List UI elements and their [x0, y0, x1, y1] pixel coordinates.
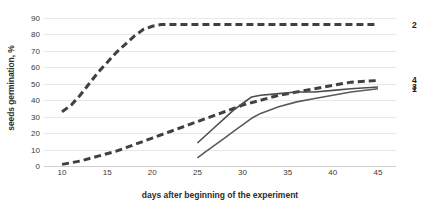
series-line-3 — [197, 87, 378, 143]
x-axis-title: days after beginning of the experiment — [44, 190, 396, 200]
plot-area — [44, 18, 396, 166]
x-axis-tick-labels: 1015202530354045 — [44, 168, 396, 184]
series-label-2: 2 — [412, 20, 417, 30]
series-line-2 — [62, 25, 378, 112]
x-tick-45: 45 — [373, 168, 382, 177]
x-tick-30: 30 — [238, 168, 247, 177]
y-tick-60: 60 — [31, 63, 40, 72]
y-tick-40: 40 — [31, 96, 40, 105]
gridline-0 — [44, 166, 396, 167]
y-tick-50: 50 — [31, 79, 40, 88]
germination-line-chart: seeds germination, % 9080706050403020100… — [0, 0, 436, 211]
y-tick-10: 10 — [31, 145, 40, 154]
series-end-labels: 2431 — [400, 0, 436, 211]
x-tick-25: 25 — [193, 168, 202, 177]
y-tick-80: 80 — [31, 30, 40, 39]
y-axis-title: seeds germination, % — [0, 0, 22, 176]
x-tick-35: 35 — [283, 168, 292, 177]
y-tick-70: 70 — [31, 46, 40, 55]
series-line-1 — [197, 89, 378, 158]
x-tick-10: 10 — [58, 168, 67, 177]
y-axis-tick-labels: 9080706050403020100 — [20, 12, 42, 168]
series-label-1: 1 — [412, 84, 417, 94]
y-tick-90: 90 — [31, 14, 40, 23]
x-tick-15: 15 — [103, 168, 112, 177]
y-tick-20: 20 — [31, 129, 40, 138]
y-tick-0: 0 — [36, 162, 40, 171]
y-tick-30: 30 — [31, 112, 40, 121]
x-tick-20: 20 — [148, 168, 157, 177]
y-axis-title-text: seeds germination, % — [6, 45, 16, 130]
series-lines — [44, 18, 396, 166]
x-tick-40: 40 — [328, 168, 337, 177]
